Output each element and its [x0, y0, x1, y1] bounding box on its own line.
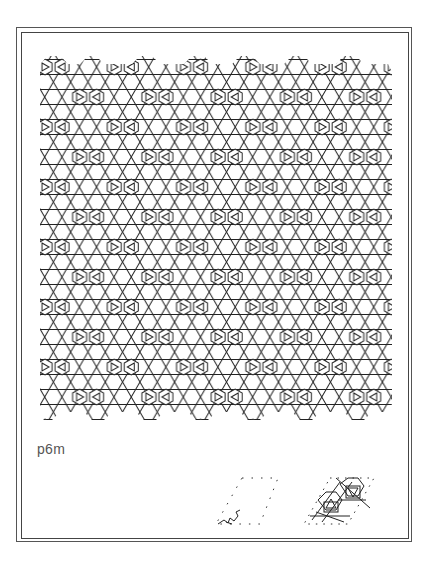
- group-label: p6m: [37, 441, 65, 457]
- dotted-parallelogram-with-motif-icon: [212, 472, 282, 530]
- wallpaper-pattern-icon: [36, 52, 396, 424]
- dotted-parallelogram-with-pattern-icon: [300, 472, 380, 530]
